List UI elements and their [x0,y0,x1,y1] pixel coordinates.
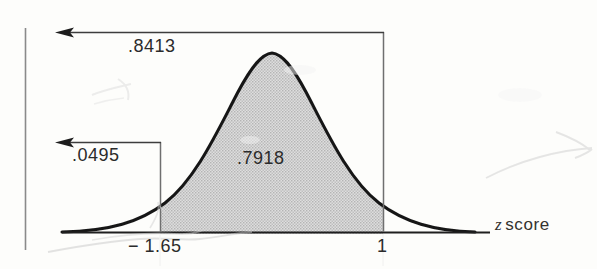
x-axis-title-z-score: zscore [495,215,550,235]
x-axis-title-score-word: score [505,215,550,234]
x-axis-title-z-italic: z [495,215,505,234]
label-left-tail-area-0495: .0495 [72,145,120,166]
axis-tick-label-negative-1-65: − 1.65 [128,236,182,257]
axis-tick-label-1: 1 [377,236,388,257]
label-shaded-area-7918: .7918 [237,148,285,169]
label-total-area-8413: .8413 [128,36,176,57]
